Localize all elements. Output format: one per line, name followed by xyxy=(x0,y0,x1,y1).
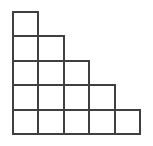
grid-cell-r2-c1 xyxy=(13,36,38,60)
grid-cell-r3-c3 xyxy=(64,61,89,85)
grid-cell-r5-c5 xyxy=(115,110,140,134)
staircase-figure: Staircase arrangement of unit squares A … xyxy=(0,0,153,146)
grid-cell-r5-c3 xyxy=(64,110,89,134)
grid-cell-r3-c2 xyxy=(38,61,63,85)
grid-cell-r4-c3 xyxy=(64,85,89,109)
grid-cell-r5-c4 xyxy=(89,110,114,134)
grid-cell-r3-c1 xyxy=(13,61,38,85)
grid-cell-r4-c1 xyxy=(13,85,38,109)
grid-cell-r5-c1 xyxy=(13,110,38,134)
grid-cell-r2-c2 xyxy=(38,36,63,60)
grid-cell-r5-c2 xyxy=(38,110,63,134)
grid-cell-r1-c1 xyxy=(13,12,38,36)
grid-cell-r4-c2 xyxy=(38,85,63,109)
staircase-diagram: Staircase arrangement of unit squares A … xyxy=(0,0,153,146)
grid-cell-r4-c4 xyxy=(89,85,114,109)
